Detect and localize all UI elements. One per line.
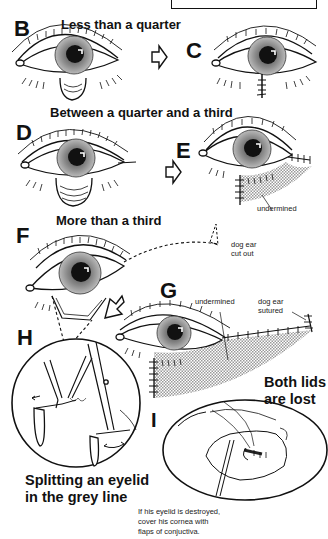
label-line: dog ear: [258, 297, 283, 306]
panel-letter-g: G: [160, 280, 177, 302]
panel-letter-i: I: [151, 410, 157, 430]
note-both-lids-lost: Both lids are lost: [264, 374, 326, 409]
caption-line: flaps of conjuctiva.: [138, 527, 220, 537]
label-line: cut out: [231, 249, 256, 258]
panel-letter-c: C: [186, 40, 202, 62]
label-undermined-e: undermined: [257, 204, 297, 213]
heading-more-than-third: More than a third: [56, 213, 161, 228]
illustration-i-conjunctival-flap: [163, 400, 327, 500]
label-line: dog ear: [231, 240, 256, 249]
caption-line: If his eyelid is destroyed,: [138, 507, 220, 517]
panel-letter-d: D: [16, 122, 32, 144]
caption-line: cover his cornea with: [138, 517, 220, 527]
arrow-right-icon: [166, 161, 181, 183]
panel-letter-e: E: [176, 140, 191, 162]
panel-letter-f: F: [16, 225, 29, 247]
caption-eyelid-destroyed: If his eyelid is destroyed, cover his co…: [138, 507, 220, 537]
heading-between-quarter-third: Between a quarter and a third: [50, 105, 233, 120]
label-line: sutured: [258, 306, 283, 315]
illustration-canvas: [0, 0, 328, 539]
label-dog-ear-sutured: dog ear sutured: [258, 297, 283, 315]
eye-d-drawing: [18, 129, 136, 206]
caption-line: Splitting an eyelid: [25, 472, 149, 489]
note-line: Both lids: [264, 374, 326, 391]
eye-e-drawing: [199, 116, 312, 210]
panel-letter-h: H: [17, 327, 33, 349]
arrow-right-icon: [152, 46, 167, 68]
panel-letter-b: B: [14, 18, 30, 40]
label-undermined-g: undermined: [195, 297, 235, 306]
heading-less-than-quarter: Less than a quarter: [61, 17, 181, 32]
caption-splitting-eyelid: Splitting an eyelid in the grey line: [25, 472, 149, 507]
arrow-down-left-icon: [105, 296, 124, 318]
note-line: are lost: [264, 391, 326, 408]
label-dog-ear-cut-out: dog ear cut out: [231, 240, 256, 258]
illustration-h-grey-line-split: [12, 339, 140, 467]
caption-line: in the grey line: [25, 489, 149, 506]
eye-c-drawing: [212, 26, 316, 98]
